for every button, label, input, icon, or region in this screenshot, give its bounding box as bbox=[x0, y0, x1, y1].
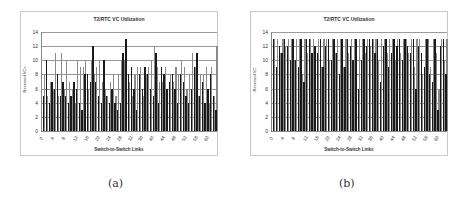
bar bbox=[418, 46, 419, 131]
bar bbox=[426, 39, 427, 131]
bar bbox=[128, 74, 129, 131]
bar bbox=[385, 39, 386, 131]
x-tick-label: 36 bbox=[138, 135, 145, 142]
bar bbox=[111, 89, 112, 131]
y-tick-label: 4 bbox=[258, 100, 268, 106]
x-tick-label: 40 bbox=[148, 135, 155, 142]
bar bbox=[43, 96, 44, 131]
bar bbox=[136, 110, 137, 131]
bar bbox=[380, 82, 381, 132]
bar bbox=[120, 103, 121, 131]
x-tick-label: 20 bbox=[324, 135, 331, 142]
bar bbox=[322, 67, 323, 131]
bar bbox=[309, 39, 310, 131]
x-tick-label: 8 bbox=[60, 136, 66, 141]
x-tick-label: 56 bbox=[422, 135, 429, 142]
bar bbox=[204, 103, 205, 131]
x-axis-label: Switch-to-Switch Links bbox=[21, 147, 217, 152]
bar bbox=[413, 39, 414, 131]
bar bbox=[144, 67, 145, 131]
bar bbox=[328, 39, 329, 131]
bar bbox=[295, 60, 296, 131]
x-tick-label: 52 bbox=[181, 135, 188, 142]
bar bbox=[352, 60, 353, 131]
bar bbox=[188, 103, 189, 131]
bar bbox=[292, 39, 293, 131]
bar bbox=[424, 67, 425, 131]
x-tick-label: 12 bbox=[302, 135, 309, 142]
y-tick-label: 14 bbox=[258, 29, 268, 35]
bar bbox=[125, 39, 126, 131]
bar bbox=[131, 67, 132, 131]
bar bbox=[314, 46, 315, 131]
x-tick-label: 16 bbox=[83, 135, 90, 142]
bar bbox=[133, 89, 134, 131]
y-tick-label: 2 bbox=[258, 114, 268, 120]
bar bbox=[311, 53, 312, 131]
bar bbox=[298, 67, 299, 131]
bar bbox=[147, 74, 148, 131]
bar bbox=[287, 46, 288, 131]
bar bbox=[172, 74, 173, 131]
bar bbox=[372, 39, 373, 131]
plot-area bbox=[41, 32, 217, 132]
bar bbox=[429, 74, 430, 131]
bar bbox=[366, 46, 367, 131]
bar bbox=[281, 53, 282, 131]
bar bbox=[344, 67, 345, 131]
bar bbox=[383, 46, 384, 131]
bar bbox=[202, 82, 203, 132]
bar bbox=[391, 53, 392, 131]
bar bbox=[183, 82, 184, 132]
bar bbox=[434, 39, 435, 131]
bar bbox=[180, 74, 181, 131]
bar bbox=[317, 53, 318, 131]
bar bbox=[363, 39, 364, 131]
bar bbox=[396, 46, 397, 131]
bar bbox=[114, 103, 115, 131]
bar bbox=[46, 60, 47, 131]
bar bbox=[81, 110, 82, 131]
bar bbox=[62, 82, 63, 132]
bar bbox=[325, 46, 326, 131]
x-tick-label: 44 bbox=[159, 135, 166, 142]
x-tick-label: 36 bbox=[368, 135, 375, 142]
bar bbox=[87, 74, 88, 131]
bar bbox=[402, 60, 403, 131]
chart-b: T2/RTC VC Utilization Reserved VC 024681… bbox=[250, 11, 448, 156]
bar bbox=[421, 53, 422, 131]
y-tick-label: 0 bbox=[28, 128, 38, 134]
bar bbox=[84, 74, 85, 131]
bar bbox=[303, 82, 304, 132]
x-tick-label: 24 bbox=[335, 135, 342, 142]
x-tick-label: 60 bbox=[433, 135, 440, 142]
bar bbox=[399, 39, 400, 131]
x-tick-label: 48 bbox=[170, 135, 177, 142]
bar bbox=[355, 39, 356, 131]
bar bbox=[358, 89, 359, 131]
bar bbox=[443, 39, 444, 131]
x-tick-label: 20 bbox=[94, 135, 101, 142]
bar bbox=[404, 39, 405, 131]
y-tick-label: 12 bbox=[258, 43, 268, 49]
bar bbox=[177, 103, 178, 131]
bar bbox=[213, 96, 214, 131]
x-tick-label: 4 bbox=[49, 136, 55, 141]
bar bbox=[79, 103, 80, 131]
bar bbox=[210, 74, 211, 131]
bar bbox=[284, 39, 285, 131]
y-axis-label: Reserved VC bbox=[252, 60, 257, 100]
bar bbox=[279, 46, 280, 131]
bar bbox=[350, 46, 351, 131]
bar bbox=[339, 74, 340, 131]
bar bbox=[106, 96, 107, 131]
bar bbox=[320, 39, 321, 131]
x-tick-label: 48 bbox=[400, 135, 407, 142]
bar bbox=[194, 67, 195, 131]
bar bbox=[377, 39, 378, 131]
bar bbox=[49, 103, 50, 131]
bar bbox=[445, 74, 446, 131]
bar bbox=[68, 103, 69, 131]
bar bbox=[273, 39, 274, 131]
bar bbox=[92, 46, 93, 131]
